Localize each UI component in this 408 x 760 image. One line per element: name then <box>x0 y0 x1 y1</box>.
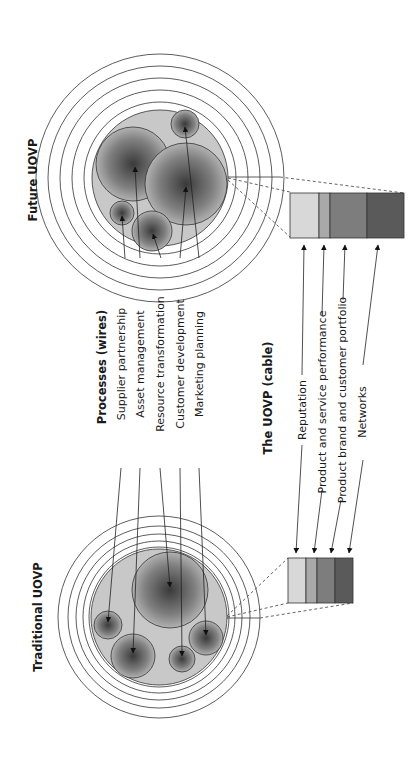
traditional-ball-resource <box>132 552 208 628</box>
traditional-ball-asset <box>111 634 155 678</box>
process-label-supplier: Supplier partnership <box>115 308 128 420</box>
future-cable <box>290 193 404 238</box>
traditional-cable-performance <box>306 558 317 603</box>
traditional-uovp-group: Traditional UOVP <box>31 516 353 718</box>
traditional-cable-reputation <box>288 558 306 603</box>
process-label-asset: Asset management <box>134 310 147 418</box>
cable-title: The UOVP (cable) <box>261 341 275 454</box>
uovp-diagram: Future UOVP Traditional UOVP <box>0 0 408 760</box>
future-uovp-title: Future UOVP <box>26 139 40 222</box>
future-uovp-group: Future UOVP <box>26 54 404 302</box>
cable-label-reputation: Reputation <box>296 380 309 440</box>
traditional-ball-supplier <box>94 611 122 639</box>
process-label-customer: Customer development <box>174 299 187 429</box>
future-cable-reputation <box>290 193 319 238</box>
cable-label-brand: Product brand and customer portfolio <box>336 297 349 504</box>
processes-title: Processes (wires) <box>95 310 109 424</box>
process-label-marketing: Marketing planning <box>193 311 206 417</box>
traditional-cable-brand <box>317 558 335 603</box>
traditional-uovp-title: Traditional UOVP <box>31 562 45 672</box>
future-cable-brand <box>330 193 367 238</box>
future-cable-performance <box>319 193 330 238</box>
cable-label-networks: Networks <box>356 386 369 438</box>
process-label-resource: Resource transformation <box>154 296 167 432</box>
traditional-cable-networks <box>335 558 353 603</box>
cable-label-performance: Product and service performance <box>316 310 329 493</box>
future-cable-networks <box>367 193 404 238</box>
future-ball-marketing <box>171 110 199 138</box>
traditional-cable <box>288 558 353 603</box>
